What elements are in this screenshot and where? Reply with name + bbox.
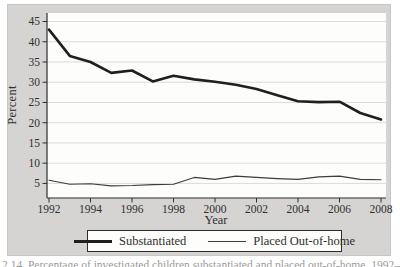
y-tick-label: 15 <box>29 137 41 149</box>
legend-label-substantiated: Substantiated <box>119 234 186 249</box>
y-tick-label: 20 <box>29 117 41 129</box>
x-tick-label: 2004 <box>287 203 310 215</box>
legend-item-placed: Placed Out-of-home <box>208 234 355 249</box>
y-tick-label: 5 <box>34 177 40 189</box>
figure-caption-clipped: 2.14. Percentage of investigated childre… <box>2 259 400 267</box>
x-tick-label: 1996 <box>121 203 144 215</box>
y-tick-label: 35 <box>29 56 41 68</box>
x-tick-label: 2006 <box>328 203 351 215</box>
legend: Substantiated Placed Out-of-home <box>87 230 342 252</box>
x-tick-label: 2008 <box>370 203 393 215</box>
figure: 5101520253035404519921994199619982000200… <box>0 0 400 267</box>
y-tick-label: 40 <box>29 36 41 48</box>
plot-area <box>47 13 386 198</box>
y-tick-label: 30 <box>29 76 41 88</box>
x-tick-label: 1994 <box>79 203 102 215</box>
thin-line-sample-icon <box>208 241 246 242</box>
thick-line-sample-icon <box>74 240 112 243</box>
legend-item-substantiated: Substantiated <box>74 234 186 249</box>
y-axis-title: Percent <box>5 85 20 125</box>
x-tick-label: 1998 <box>162 203 185 215</box>
y-tick-label: 10 <box>29 157 41 169</box>
y-tick-label: 25 <box>29 96 41 108</box>
x-tick-label: 2002 <box>245 203 268 215</box>
chart-svg: 5101520253035404519921994199619982000200… <box>0 0 400 267</box>
x-axis-title: Year <box>204 213 227 228</box>
x-tick-label: 1992 <box>38 203 61 215</box>
legend-label-placed: Placed Out-of-home <box>253 234 355 249</box>
y-tick-label: 45 <box>29 15 41 27</box>
